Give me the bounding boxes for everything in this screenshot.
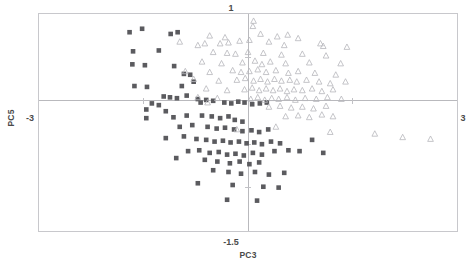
data-point-triangle <box>295 68 301 73</box>
data-point-triangle <box>222 34 228 39</box>
data-point-square <box>247 162 252 167</box>
data-point-triangle <box>269 95 275 100</box>
data-point-square <box>194 137 199 142</box>
data-point-triangle <box>216 78 222 83</box>
data-point-triangle <box>256 87 262 92</box>
data-point-square <box>144 116 149 121</box>
x-axis-max-label: 3 <box>460 113 465 123</box>
data-point-square <box>266 127 271 132</box>
data-point-triangle <box>249 85 255 90</box>
data-point-square <box>209 114 214 119</box>
data-point-square <box>222 100 227 105</box>
data-point-triangle <box>203 86 209 91</box>
data-point-triangle <box>233 51 239 56</box>
data-point-square <box>236 99 241 104</box>
data-point-triangle <box>255 67 261 72</box>
data-point-triangle <box>284 88 290 93</box>
data-point-square <box>175 96 180 101</box>
data-point-triangle <box>309 86 315 91</box>
data-point-triangle <box>251 18 257 23</box>
data-point-square <box>172 64 177 69</box>
data-point-square <box>157 48 162 53</box>
data-point-square <box>240 119 245 124</box>
data-point-square <box>237 139 242 144</box>
data-point-triangle <box>277 86 283 91</box>
data-point-square <box>161 94 166 99</box>
data-point-triangle <box>327 129 333 134</box>
data-point-square <box>212 139 217 144</box>
data-point-triangle <box>199 59 205 64</box>
data-point-square <box>272 149 277 154</box>
data-point-square <box>190 123 195 128</box>
data-point-triangle <box>304 77 310 82</box>
data-point-square <box>175 30 180 35</box>
data-point-triangle <box>281 42 287 47</box>
data-point-triangle <box>287 77 293 82</box>
data-point-triangle <box>238 69 244 74</box>
data-point-square <box>261 184 266 189</box>
data-point-triangle <box>219 60 225 65</box>
data-point-triangle <box>306 60 312 65</box>
data-point-square <box>223 125 228 130</box>
data-point-triangle <box>265 79 271 84</box>
data-point-square <box>216 150 221 155</box>
data-point-square <box>228 161 233 166</box>
data-point-square <box>257 130 262 135</box>
data-point-triangle <box>306 114 312 119</box>
data-point-triangle <box>210 49 216 54</box>
data-point-square <box>131 49 136 54</box>
data-point-triangle <box>266 39 272 44</box>
data-point-triangle <box>333 72 339 77</box>
data-point-triangle <box>316 79 322 84</box>
data-point-square <box>186 149 191 154</box>
data-point-triangle <box>343 79 349 84</box>
data-point-square <box>240 129 245 134</box>
data-point-square <box>225 197 230 202</box>
data-point-triangle <box>177 39 183 44</box>
data-point-triangle <box>283 113 289 118</box>
data-point-triangle <box>323 103 329 108</box>
data-point-triangle <box>295 35 301 40</box>
data-point-square <box>252 140 257 145</box>
data-point-square <box>127 30 132 35</box>
data-point-square <box>225 152 230 157</box>
data-point-square <box>221 138 226 143</box>
data-point-square <box>130 62 135 67</box>
data-point-triangle <box>299 104 305 109</box>
data-point-square <box>239 171 244 176</box>
data-point-triangle <box>400 134 406 139</box>
data-point-triangle <box>263 69 269 74</box>
data-point-square <box>237 159 242 164</box>
data-point-triangle <box>294 79 300 84</box>
data-point-triangle <box>195 42 201 47</box>
data-point-square <box>276 185 281 190</box>
data-point-triangle <box>270 87 276 92</box>
data-point-square <box>257 160 262 165</box>
data-point-square <box>150 101 155 106</box>
data-point-square <box>260 152 265 157</box>
x-axis-title: PC3 <box>239 250 256 260</box>
data-point-triangle <box>273 124 279 129</box>
data-point-triangle <box>242 87 248 92</box>
data-point-triangle <box>327 80 333 85</box>
data-point-triangle <box>272 76 278 81</box>
data-point-triangle <box>325 94 331 99</box>
data-point-square <box>196 181 201 186</box>
data-point-triangle <box>202 41 208 46</box>
data-point-square <box>211 168 216 173</box>
data-point-square <box>215 159 220 164</box>
data-point-square <box>297 149 302 154</box>
data-point-triangle <box>224 87 230 92</box>
data-point-triangle <box>285 32 291 37</box>
data-point-square <box>278 141 283 146</box>
data-point-triangle <box>338 60 344 65</box>
data-point-square <box>184 93 189 98</box>
data-point-square <box>249 128 254 133</box>
data-point-square <box>177 125 182 130</box>
data-point-square <box>140 26 145 31</box>
data-point-triangle <box>252 58 258 63</box>
data-point-square <box>310 138 315 143</box>
data-point-triangle <box>207 69 213 74</box>
data-point-square <box>230 183 235 188</box>
data-point-triangle <box>311 106 317 111</box>
